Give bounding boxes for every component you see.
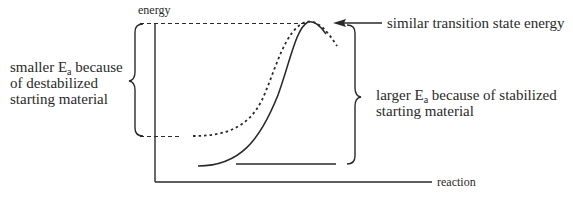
y-axis-label: energy	[138, 2, 170, 18]
stabilized-reaction-curve	[198, 22, 326, 166]
left-annotation-line1: smaller Ea because	[10, 59, 123, 75]
right-ea-suffix: because of stabilized	[428, 87, 557, 103]
destabilized-reaction-curve	[193, 22, 337, 136]
right-brace-icon	[347, 25, 361, 164]
x-axis-label: reaction	[437, 174, 476, 190]
left-brace-icon	[129, 24, 143, 136]
right-annotation-line2: starting material	[376, 103, 474, 119]
left-annotation-line3: starting material	[10, 91, 108, 107]
right-annotation-line1: larger Ea because of stabilized	[376, 87, 557, 103]
left-annotation-line2: of destabilized	[10, 75, 98, 91]
right-ea-prefix: larger E	[376, 87, 424, 103]
left-ea-suffix: because	[72, 59, 123, 75]
left-ea-prefix: smaller E	[10, 59, 67, 75]
transition-state-annotation: similar transition state energy	[387, 15, 565, 31]
